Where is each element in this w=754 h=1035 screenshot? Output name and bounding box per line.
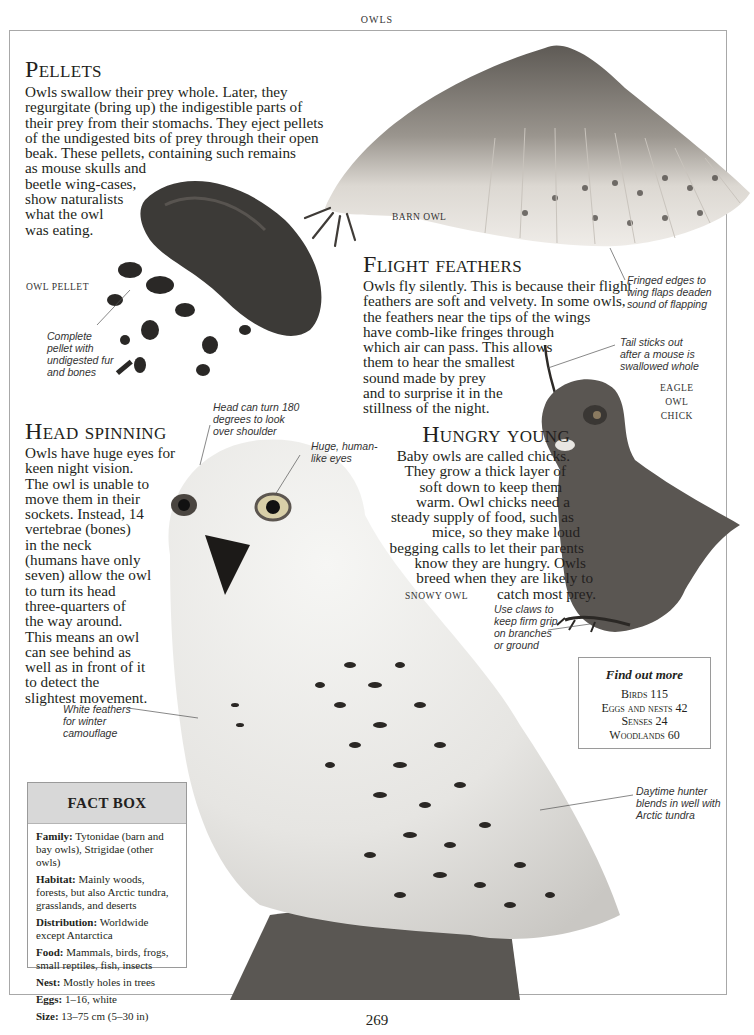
fact-row-food: Food: Mammals, birds, frogs, small repti…: [36, 946, 178, 972]
find-out-more-box: Find out more Birds 115 Eggs and nests 4…: [578, 657, 711, 749]
pellet-annotation: Complete pellet with undigested fur and …: [47, 330, 114, 378]
find-out-more-label: Eggs and nests: [601, 701, 672, 715]
section-pellets: Pellets Owls swallow their prey whole. L…: [25, 56, 325, 237]
find-out-more-item[interactable]: Senses 24: [579, 715, 710, 729]
fact-key: Food:: [36, 946, 64, 958]
fact-row-eggs: Eggs: 1–16, white: [36, 993, 178, 1006]
section-flight-feathers: Flight feathers Owls fly silently. This …: [363, 251, 643, 416]
fact-box: FACT BOX Family: Tytonidae (barn and bay…: [27, 782, 187, 968]
daytime-hunter-annotation: Daytime hunter blends in well with Arcti…: [636, 785, 721, 821]
fact-key: Family:: [36, 830, 73, 842]
barn-owl-caption: BARN OWL: [392, 212, 446, 222]
hungry-young-line: breed when they are likely to: [380, 570, 596, 585]
section-head-spinning: Head spinning Owls have huge eyes for ke…: [25, 418, 190, 705]
tail-annotation: Tail sticks out after a mouse is swallow…: [620, 336, 699, 372]
find-out-more-page: 42: [676, 701, 688, 715]
fact-row-nest: Nest: Mostly holes in trees: [36, 976, 178, 989]
flight-feathers-body: Owls fly silently. This is because their…: [363, 278, 643, 416]
fact-key: Habitat:: [36, 873, 76, 885]
fact-value: Mostly holes in trees: [63, 976, 155, 988]
flight-feathers-heading: Flight feathers: [363, 251, 643, 277]
white-feathers-annotation: White feathers for winter camouflage: [63, 703, 131, 739]
eyes-annotation: Huge, human- like eyes: [311, 440, 378, 464]
page-number: 269: [0, 1012, 754, 1029]
hungry-young-line: Baby owls are called chicks.: [380, 448, 596, 463]
hungry-young-line: warm. Owl chicks need a: [380, 494, 596, 509]
eagle-owl-chick-caption: EAGLE OWL CHICK: [660, 381, 694, 423]
hungry-young-line: begging calls to let their parents: [380, 540, 596, 555]
find-out-more-page: 60: [668, 728, 680, 742]
find-out-more-label: Woodlands: [609, 728, 664, 742]
hungry-young-line: mice, so they make loud: [380, 524, 596, 539]
fact-key: Eggs:: [36, 993, 62, 1005]
fact-key: Distribution:: [36, 916, 97, 928]
fact-row-habitat: Habitat: Mainly woods, forests, but also…: [36, 873, 178, 912]
find-out-more-item[interactable]: Birds 115: [579, 688, 710, 702]
find-out-more-page: 24: [656, 714, 668, 728]
hungry-young-line: soft down to keep them: [380, 479, 596, 494]
hungry-young-body: Baby owls are called chicks. They grow a…: [380, 448, 596, 601]
snowy-owl-caption: SNOWY OWL: [405, 591, 468, 601]
pellets-body: Owls swallow their prey whole. Later, th…: [25, 84, 325, 237]
pellets-heading: Pellets: [25, 56, 325, 82]
section-hungry-young: Hungry young Baby owls are called chicks…: [380, 421, 596, 601]
find-out-more-item[interactable]: Eggs and nests 42: [579, 702, 710, 716]
fact-row-distribution: Distribution: Worldwide except Antarctic…: [36, 916, 178, 942]
hungry-young-line: steady supply of food, such as: [380, 509, 596, 524]
fact-key: Nest:: [36, 976, 60, 988]
find-out-more-title: Find out more: [579, 667, 710, 683]
fact-value: 1–16, white: [65, 993, 117, 1005]
find-out-more-label: Senses: [621, 714, 652, 728]
head-spinning-heading: Head spinning: [25, 418, 190, 444]
head-turn-annotation: Head can turn 180 degrees to look over s…: [213, 401, 299, 437]
hungry-young-heading: Hungry young: [380, 421, 596, 447]
find-out-more-item[interactable]: Woodlands 60: [579, 729, 710, 743]
fact-row-family: Family: Tytonidae (barn and bay owls), S…: [36, 830, 178, 869]
claws-annotation: Use claws to keep firm grip on branches …: [494, 603, 558, 651]
head-spinning-body: Owls have huge eyes for keen night visio…: [25, 445, 190, 705]
hungry-young-line: They grow a thick layer of: [380, 463, 596, 478]
hungry-young-line: know they are hungry. Owls: [380, 555, 596, 570]
find-out-more-page: 115: [650, 687, 668, 701]
fact-box-body: Family: Tytonidae (barn and bay owls), S…: [28, 824, 186, 1023]
fact-box-title: FACT BOX: [28, 783, 186, 824]
owl-pellet-caption: OWL PELLET: [26, 282, 89, 292]
find-out-more-label: Birds: [621, 687, 647, 701]
